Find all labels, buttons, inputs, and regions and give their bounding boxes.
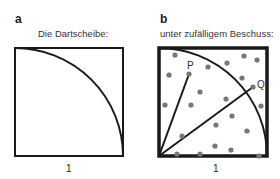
dart-hit-dot — [244, 128, 249, 133]
dart-hit-dot — [205, 64, 210, 69]
dart-hit-dot — [229, 113, 234, 118]
quarter-circle-arc — [15, 48, 123, 156]
distance-line-q — [159, 87, 253, 156]
dart-hit-dot — [166, 72, 171, 77]
dart-hit-dot — [172, 52, 177, 57]
point-label-q: Q — [257, 79, 265, 90]
dart-hit-dot — [224, 60, 229, 65]
dart-hit-dot — [223, 96, 228, 101]
square-outline — [159, 48, 267, 156]
dart-hit-dot — [188, 102, 193, 107]
dart-hit-dot — [239, 75, 244, 80]
square-outline — [15, 48, 123, 156]
dart-hit-dot — [250, 84, 255, 89]
dart-hit-dot — [162, 102, 167, 107]
dart-hit-dot — [254, 57, 259, 62]
point-label-p: P — [187, 60, 194, 71]
dart-hit-dot — [213, 122, 218, 127]
distance-line-p — [159, 74, 189, 156]
dart-hit-dot — [241, 53, 246, 58]
panel-b-random-shots: PQ — [159, 48, 267, 159]
dart-hit-dot — [186, 71, 191, 76]
dart-hit-dot — [256, 153, 261, 158]
dart-hit-dot — [197, 89, 202, 94]
dart-hit-dot — [258, 103, 263, 108]
dart-hit-dot — [197, 151, 202, 156]
dart-hit-dot — [179, 133, 184, 138]
panel-a-dartboard — [15, 48, 123, 156]
dart-hit-dot — [212, 143, 217, 148]
dart-hit-dot — [174, 151, 179, 156]
dart-hit-dot — [228, 147, 233, 152]
quarter-circle-arc — [159, 48, 267, 156]
dartboard-diagram: PQ — [0, 0, 280, 179]
